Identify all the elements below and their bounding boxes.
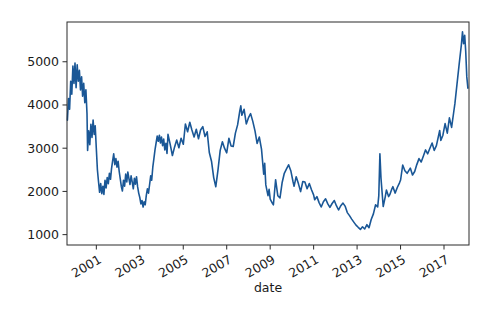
x-tick-label: 2009: [243, 252, 278, 281]
figure: 2001200320052007200920112013201520171000…: [0, 0, 499, 312]
x-tick-label: 2017: [416, 252, 451, 281]
series-line: [67, 32, 468, 230]
plot-frame: [67, 22, 469, 245]
x-tick-label: 2015: [373, 252, 408, 281]
y-tick-label: 4000: [27, 97, 59, 112]
y-tick-label: 3000: [27, 141, 59, 156]
y-tick-label: 5000: [27, 54, 59, 69]
x-tick-label: 2001: [69, 252, 104, 281]
x-tick-label: 2003: [112, 252, 147, 281]
line-chart: 2001200320052007200920112013201520171000…: [0, 0, 499, 312]
x-tick-label: 2013: [330, 252, 365, 281]
x-axis-label: date: [254, 280, 282, 295]
x-tick-label: 2007: [199, 252, 234, 281]
x-tick-label: 2011: [286, 252, 321, 281]
y-tick-label: 2000: [27, 184, 59, 199]
y-tick-label: 1000: [27, 227, 59, 242]
x-tick-label: 2005: [156, 252, 191, 281]
